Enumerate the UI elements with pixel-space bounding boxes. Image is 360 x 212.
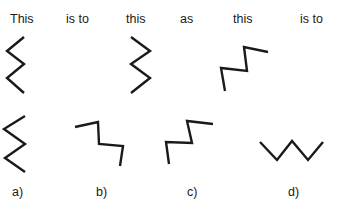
option-d-zigzag-icon[interactable] <box>260 141 323 160</box>
option-c-zigzag-icon[interactable] <box>166 121 213 164</box>
option-b-zigzag-icon[interactable] <box>75 122 123 166</box>
stem-figure-2-zigzag-icon <box>131 37 150 93</box>
figures-canvas <box>0 0 360 212</box>
option-b-label[interactable]: b) <box>96 185 107 199</box>
stem-figure-1-zigzag-icon <box>7 37 24 93</box>
option-d-label[interactable]: d) <box>288 185 299 199</box>
option-a-zigzag-icon[interactable] <box>4 116 25 172</box>
option-a-label[interactable]: a) <box>12 185 23 199</box>
option-c-label[interactable]: c) <box>187 185 197 199</box>
stem-figure-3-zigzag-icon <box>221 47 268 91</box>
